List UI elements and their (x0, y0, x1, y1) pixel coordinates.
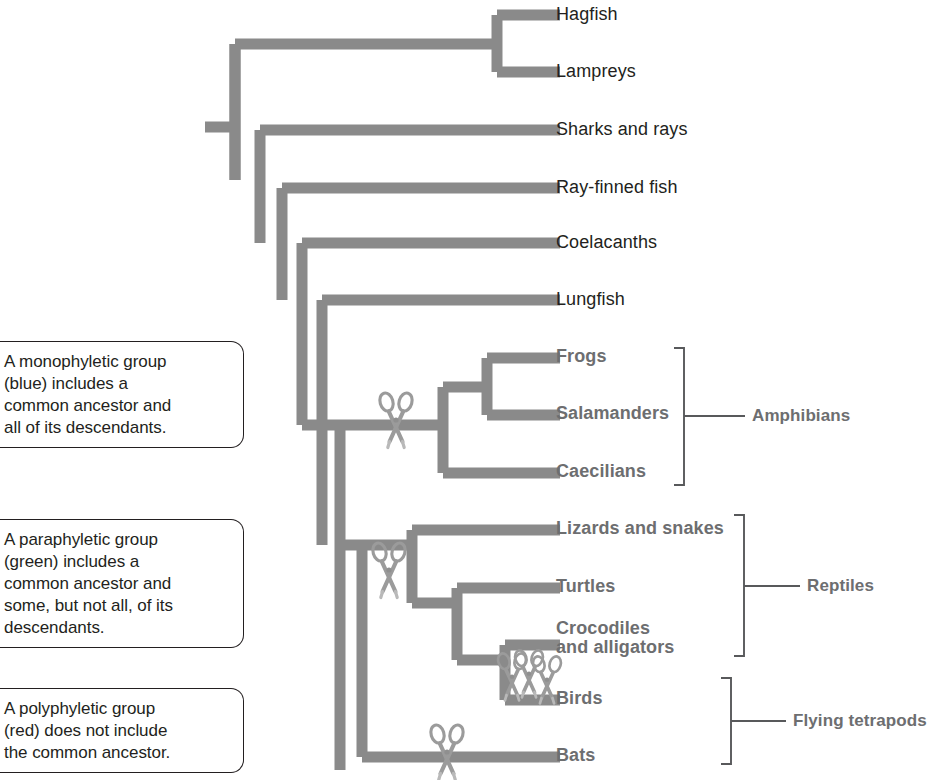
bracket-amphibians (674, 348, 684, 485)
callout-monophyletic: A monophyletic group (blue) includes a c… (0, 341, 244, 448)
taxon-label-caecilians: Caecilians (556, 462, 646, 481)
taxon-label-bats: Bats (556, 746, 595, 765)
bracket-reptiles (734, 515, 744, 656)
callout-monophyletic-line1: A monophyletic group (4, 351, 233, 373)
group-label-reptiles: Reptiles (807, 576, 874, 596)
group-label-amphibians: Amphibians (752, 406, 850, 426)
callout-polyphyletic-line3: the common ancestor. (4, 742, 233, 764)
callout-paraphyletic-line5: descendants. (4, 617, 233, 639)
callout-paraphyletic-line3: common ancestor and (4, 573, 233, 595)
taxon-label-turtles: Turtles (556, 577, 615, 596)
scissors-icon-bats-branch (429, 723, 465, 779)
scissors-icon-amphibian-stem (378, 391, 414, 447)
callout-polyphyletic-line2: (red) does not include (4, 720, 233, 742)
taxon-label-rayfinned: Ray-finned fish (556, 178, 678, 197)
taxon-label-lampreys: Lampreys (556, 62, 636, 81)
callout-paraphyletic: A paraphyletic group (green) includes a … (0, 519, 244, 648)
callout-monophyletic-line4: all of its descendants. (4, 417, 233, 439)
phylogenetic-tree-figure: Hagfish Lampreys Sharks and rays Ray-fin… (0, 0, 941, 780)
taxon-label-lungfish: Lungfish (556, 290, 625, 309)
callout-polyphyletic: A polyphyletic group (red) does not incl… (0, 688, 244, 773)
taxon-label-hagfish: Hagfish (556, 5, 618, 24)
taxon-label-crocodiles-line2: and alligators (556, 638, 674, 657)
callout-monophyletic-line2: (blue) includes a (4, 373, 233, 395)
callout-paraphyletic-line2: (green) includes a (4, 551, 233, 573)
taxon-label-frogs: Frogs (556, 347, 607, 366)
taxon-label-crocodiles: Crocodiles and alligators (556, 619, 674, 657)
taxon-label-salamanders: Salamanders (556, 404, 669, 423)
taxon-label-crocodiles-line1: Crocodiles (556, 619, 674, 638)
callout-monophyletic-line3: common ancestor and (4, 395, 233, 417)
taxon-label-sharks: Sharks and rays (556, 120, 688, 139)
taxon-label-birds: Birds (556, 689, 603, 708)
group-label-flying-tetrapods: Flying tetrapods (793, 711, 927, 731)
callout-paraphyletic-line4: some, but not all, of its (4, 595, 233, 617)
callout-paraphyletic-line1: A paraphyletic group (4, 529, 233, 551)
taxon-label-coelacanths: Coelacanths (556, 233, 657, 252)
callout-polyphyletic-line1: A polyphyletic group (4, 698, 233, 720)
bracket-flying-tetrapods (721, 678, 731, 764)
taxon-label-lizards: Lizards and snakes (556, 519, 724, 538)
